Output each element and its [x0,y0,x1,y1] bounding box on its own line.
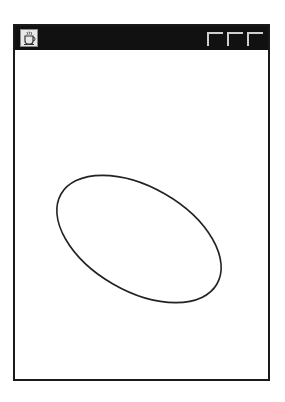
close-button[interactable] [247,32,263,46]
ellipse-canvas [15,50,268,379]
ellipse-shape [35,149,243,329]
maximize-button[interactable] [227,32,243,46]
minimize-button[interactable] [207,32,223,46]
drawing-area[interactable] [15,50,268,379]
app-window [13,24,270,381]
title-bar[interactable] [15,26,268,50]
coffee-cup-icon[interactable] [20,29,38,47]
